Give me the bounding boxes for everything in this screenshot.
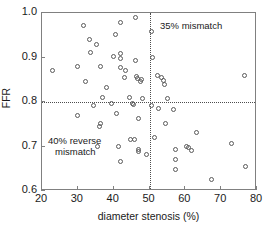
x-tick-label: 20 <box>26 192 56 205</box>
data-point <box>118 20 123 25</box>
reference-line-stenosis-50 <box>150 13 151 189</box>
data-point <box>133 58 138 63</box>
x-tick-mark <box>256 186 257 190</box>
data-point <box>149 103 154 108</box>
data-point <box>162 82 167 87</box>
x-tick-label: 60 <box>169 192 199 205</box>
y-tick-label: 1.0 <box>7 6 37 17</box>
data-point <box>194 130 199 135</box>
data-point <box>75 113 80 118</box>
annotation-reverse-mismatch-line1: 40% reverse <box>48 135 101 146</box>
data-point <box>156 106 161 111</box>
data-point <box>173 157 178 162</box>
y-tick-label: 0.7 <box>7 140 37 151</box>
data-point <box>88 50 93 55</box>
data-point <box>209 177 214 182</box>
data-point <box>165 96 170 101</box>
data-point <box>123 68 128 73</box>
plot-area <box>42 13 255 189</box>
x-axis-title: diameter stenosis (%) <box>41 210 256 222</box>
x-tick-mark <box>220 186 221 190</box>
x-tick-mark <box>113 186 114 190</box>
data-point <box>81 23 86 28</box>
annotation-reverse-mismatch-line2: mismatch <box>48 146 128 157</box>
data-point <box>100 95 105 100</box>
annotation-mismatch: 35% mismatch <box>160 20 222 31</box>
x-tick-label: 30 <box>62 192 92 205</box>
data-point <box>243 164 248 169</box>
data-point <box>242 73 247 78</box>
data-point <box>75 64 80 69</box>
x-tick-mark <box>149 186 150 190</box>
data-point <box>229 141 234 146</box>
data-point <box>113 32 118 37</box>
x-axis-tick-labels: 20304050607080 <box>0 192 268 208</box>
reference-line-ffr-0.8 <box>42 102 255 103</box>
data-point <box>118 51 123 56</box>
data-point <box>140 96 145 101</box>
x-tick-label: 80 <box>241 192 268 205</box>
data-point <box>173 147 178 152</box>
data-point <box>50 68 55 73</box>
data-point <box>118 159 123 164</box>
data-point <box>109 101 114 106</box>
data-point <box>131 102 136 107</box>
data-point <box>127 95 132 100</box>
x-tick-mark <box>77 186 78 190</box>
data-point <box>87 37 92 42</box>
data-point <box>149 29 154 34</box>
y-tick-mark <box>41 57 45 58</box>
annotation-reverse-mismatch: 40% reversemismatch <box>48 135 128 157</box>
data-point <box>132 137 137 142</box>
data-point <box>118 56 123 61</box>
data-point <box>136 116 141 121</box>
data-point <box>111 54 116 59</box>
data-point <box>173 167 178 172</box>
data-point <box>171 107 176 112</box>
data-point <box>98 64 103 69</box>
x-tick-label: 50 <box>134 192 164 205</box>
data-point <box>114 111 119 116</box>
data-point <box>144 152 149 157</box>
data-point <box>91 103 96 108</box>
data-point <box>133 15 138 20</box>
y-tick-label: 0.9 <box>7 51 37 62</box>
data-point <box>136 149 141 154</box>
data-point <box>97 124 102 129</box>
y-tick-mark <box>41 101 45 102</box>
scatter-plot-figure: 35% mismatch 40% reversemismatch 0.60.70… <box>0 0 268 233</box>
data-point <box>122 75 127 80</box>
x-tick-mark <box>184 186 185 190</box>
data-point <box>150 55 155 60</box>
x-tick-label: 40 <box>98 192 128 205</box>
plot-frame: 35% mismatch 40% reversemismatch <box>41 12 256 190</box>
data-point <box>94 42 99 47</box>
y-tick-mark <box>41 12 45 13</box>
x-tick-label: 70 <box>205 192 235 205</box>
y-tick-mark <box>41 146 45 147</box>
data-point <box>139 77 144 82</box>
data-point <box>83 79 88 84</box>
x-tick-mark <box>41 186 42 190</box>
y-tick-mark <box>41 190 45 191</box>
y-axis-title: FFR <box>0 78 12 118</box>
data-point <box>104 85 109 90</box>
data-point <box>189 148 194 153</box>
data-point <box>163 121 168 126</box>
data-point <box>152 135 157 140</box>
